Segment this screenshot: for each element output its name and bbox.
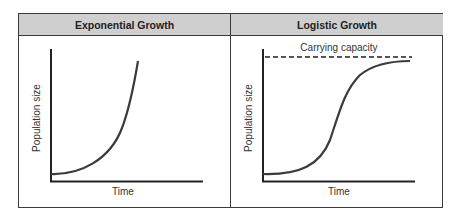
exponential-curve bbox=[51, 61, 138, 174]
x-axis-label: Time bbox=[112, 186, 134, 197]
carrying-capacity-label: Carrying capacity bbox=[300, 42, 377, 53]
exponential-plot: Time Population size bbox=[31, 49, 203, 197]
x-axis-label: Time bbox=[328, 186, 350, 197]
y-axis-label: Population size bbox=[31, 84, 42, 152]
plots-svg: Time Population size Carrying capacity T… bbox=[0, 0, 461, 220]
logistic-plot: Carrying capacity Time Population size bbox=[243, 42, 415, 197]
logistic-curve bbox=[263, 61, 410, 174]
y-axis-label: Population size bbox=[243, 84, 254, 152]
